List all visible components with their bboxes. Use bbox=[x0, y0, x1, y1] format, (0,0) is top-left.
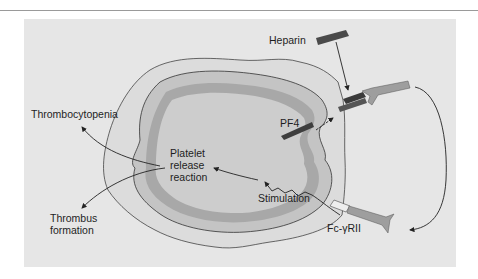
thrombus-formation-line-2: formation bbox=[50, 224, 97, 236]
platelet-release-line-3: reaction bbox=[170, 171, 207, 183]
antibody-loop-arrow bbox=[410, 87, 446, 230]
pf4-label: PF4 bbox=[280, 117, 299, 129]
stimulation-label: Stimulation bbox=[258, 192, 310, 204]
heparin-label: Heparin bbox=[269, 34, 306, 46]
heparin-molecule bbox=[316, 30, 349, 45]
platelet-release-line-2: release bbox=[170, 159, 207, 171]
thrombus-formation-label: Thrombus formation bbox=[50, 212, 97, 236]
fc-receptor-label: Fc-γRII bbox=[327, 222, 361, 234]
platelet-release-line-1: Platelet bbox=[170, 147, 207, 159]
platelet-release-label: Platelet release reaction bbox=[170, 147, 207, 183]
platelet-diagram bbox=[0, 0, 478, 279]
thrombus-formation-line-1: Thrombus bbox=[50, 212, 97, 224]
antibody-top bbox=[362, 81, 410, 105]
thrombocytopenia-label: Thrombocytopenia bbox=[31, 108, 118, 120]
